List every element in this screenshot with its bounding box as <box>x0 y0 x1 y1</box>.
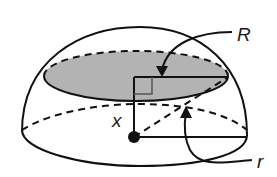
label-r: r <box>257 151 264 172</box>
label-R: R <box>237 24 251 45</box>
hemisphere-diagram: R x r <box>0 0 277 177</box>
center-point <box>128 131 140 143</box>
label-x: x <box>111 110 123 131</box>
